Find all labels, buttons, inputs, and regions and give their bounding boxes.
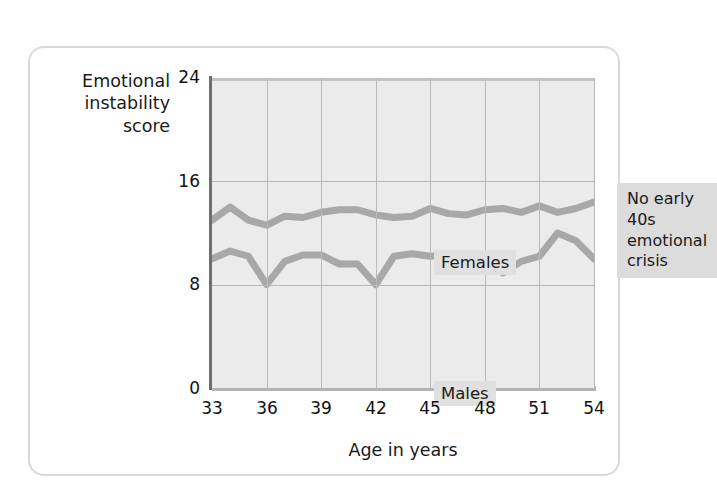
line-females xyxy=(212,202,594,225)
gridline-y-16 xyxy=(212,181,594,182)
gridline-x-54 xyxy=(594,78,595,388)
series-lines xyxy=(212,78,594,388)
xtick-33: 33 xyxy=(192,398,232,418)
gridline-x-39 xyxy=(321,78,322,388)
ytick-8: 8 xyxy=(160,274,200,294)
xtick-45: 45 xyxy=(410,398,450,418)
xtick-48: 48 xyxy=(465,398,505,418)
plot-top-border xyxy=(212,78,594,81)
y-axis-title: Emotional instability score xyxy=(40,70,170,137)
xtick-36: 36 xyxy=(247,398,287,418)
gridline-x-51 xyxy=(539,78,540,388)
xtick-42: 42 xyxy=(356,398,396,418)
gridline-x-42 xyxy=(376,78,377,388)
gridline-x-48 xyxy=(485,78,486,388)
xtick-54: 54 xyxy=(574,398,614,418)
series-label-females: Females xyxy=(434,250,516,275)
x-axis-title: Age in years xyxy=(212,440,594,460)
gridline-y-8 xyxy=(212,285,594,286)
plot-area: No early 40s emotional crisis Females Ma… xyxy=(212,78,594,388)
line-males xyxy=(212,233,594,285)
ytick-24: 24 xyxy=(160,67,200,87)
gridline-x-36 xyxy=(267,78,268,388)
ytick-0: 0 xyxy=(160,378,200,398)
xtick-51: 51 xyxy=(519,398,559,418)
gridline-x-45 xyxy=(430,78,431,388)
ytick-16: 16 xyxy=(160,171,200,191)
annotation-no-crisis: No early 40s emotional crisis xyxy=(617,183,717,278)
xtick-39: 39 xyxy=(301,398,341,418)
